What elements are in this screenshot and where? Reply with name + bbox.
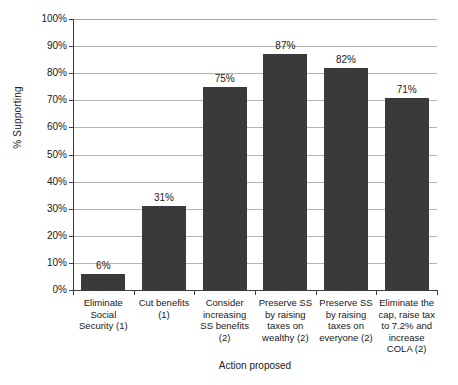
bar-group: 75% (194, 19, 255, 290)
x-axis-category-label-line: COLA (2) (376, 343, 437, 355)
bar (385, 98, 429, 290)
x-axis-category-label: Preserve SSby raisingtaxes onwealthy (2) (255, 297, 316, 343)
x-axis-category-label-line: cap, raise tax (376, 309, 437, 321)
x-axis-category-label: Preserve SSby raisingtaxes oneveryone (2… (316, 297, 377, 343)
y-axis-tick-labels: 100%90%80%70%60%50%40%30%20%10%0% (26, 19, 67, 291)
bar-group: 87% (255, 19, 316, 290)
x-axis-category-label-line: (1) (134, 309, 195, 321)
bar (203, 87, 247, 290)
bar (81, 274, 125, 290)
bar-value-label: 82% (336, 54, 356, 65)
x-axis-category-labels: EliminateSocialSecurity (1)Cut benefits(… (73, 297, 437, 359)
y-axis-tick-label: 30% (26, 204, 67, 214)
bar-chart: % Supporting 100%90%80%70%60%50%40%30%20… (0, 0, 458, 385)
y-axis-tick-label: 40% (26, 177, 67, 187)
x-axis-category-label-line: Social (73, 309, 134, 321)
y-axis-tick-label: 60% (26, 122, 67, 132)
y-axis-tick-label: 100% (26, 14, 67, 24)
x-axis-category-label-line: taxes on (316, 320, 377, 332)
bar-group: 6% (73, 19, 134, 290)
y-axis-title: % Supporting (12, 63, 23, 173)
y-axis-tick-label: 10% (26, 258, 67, 268)
x-axis-category-label-line: Consider (194, 297, 255, 309)
y-axis-tick-label: 50% (26, 150, 67, 160)
x-axis-category-label: EliminateSocialSecurity (1) (73, 297, 134, 332)
x-axis-category-label-line: taxes on (255, 320, 316, 332)
bar-series: 6%31%75%87%82%71% (73, 19, 437, 291)
x-axis-category-label-line: increase (376, 332, 437, 344)
x-axis-category-label-line: Security (1) (73, 320, 134, 332)
x-axis-category-label-line: SS benefits (2) (194, 320, 255, 343)
y-axis-tick-label: 80% (26, 68, 67, 78)
x-axis-category-label-line: increasing (194, 309, 255, 321)
bar (324, 68, 368, 290)
bar-value-label: 31% (154, 192, 174, 203)
plot-area: 6%31%75%87%82%71% (73, 19, 437, 291)
x-axis-title: Action proposed (73, 360, 437, 371)
x-axis-category-label-line: to 7.2% and (376, 320, 437, 332)
x-axis-category-label: Eliminate thecap, raise taxto 7.2% andin… (376, 297, 437, 355)
bar (142, 206, 186, 290)
bar-value-label: 71% (397, 84, 417, 95)
bar-value-label: 87% (275, 40, 295, 51)
bar-value-label: 6% (96, 260, 110, 271)
x-axis-category-label-line: wealthy (2) (255, 332, 316, 344)
x-axis-category-label-line: Cut benefits (134, 297, 195, 309)
x-axis-category-label: Cut benefits(1) (134, 297, 195, 320)
bar-group: 82% (316, 19, 377, 290)
x-axis-category-label-line: by raising (316, 309, 377, 321)
y-axis-tick-label: 90% (26, 41, 67, 51)
x-axis-category-label: ConsiderincreasingSS benefits (2) (194, 297, 255, 343)
y-axis-tick-label: 20% (26, 231, 67, 241)
bar (263, 54, 307, 290)
x-axis-category-label-line: everyone (2) (316, 332, 377, 344)
x-axis-category-label-line: Preserve SS (255, 297, 316, 309)
x-axis-category-label-line: Preserve SS (316, 297, 377, 309)
x-axis-category-label-line: Eliminate (73, 297, 134, 309)
bar-value-label: 75% (215, 73, 235, 84)
category-tick-mark (437, 290, 438, 295)
x-axis-category-label-line: Eliminate the (376, 297, 437, 309)
y-axis-tick-label: 0% (26, 285, 67, 295)
y-axis-tick-label: 70% (26, 95, 67, 105)
bar-group: 71% (376, 19, 437, 290)
x-axis-category-label-line: by raising (255, 309, 316, 321)
bar-group: 31% (134, 19, 195, 290)
